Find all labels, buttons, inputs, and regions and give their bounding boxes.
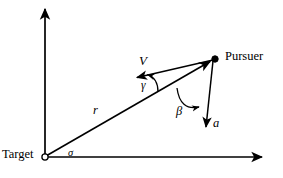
gamma-angle-label: γ: [141, 80, 146, 92]
pursuer-label: Pursuer: [225, 50, 263, 63]
acceleration-vector-a: [206, 61, 213, 127]
range-vector-label: r: [93, 104, 98, 117]
beta-angle-label: β: [176, 105, 182, 118]
pursuit-geometry-figure: Target Pursuer V a r γ β σ: [0, 0, 283, 178]
velocity-vector-label: V: [139, 54, 147, 67]
pursuer-point-marker: [212, 56, 218, 62]
sigma-angle-label: σ: [68, 148, 73, 159]
range-vector-r: [46, 62, 210, 157]
target-label: Target: [2, 148, 34, 161]
gamma-angle-arc: [148, 75, 159, 93]
target-point-marker: [42, 154, 48, 160]
acceleration-vector-label: a: [213, 117, 219, 130]
